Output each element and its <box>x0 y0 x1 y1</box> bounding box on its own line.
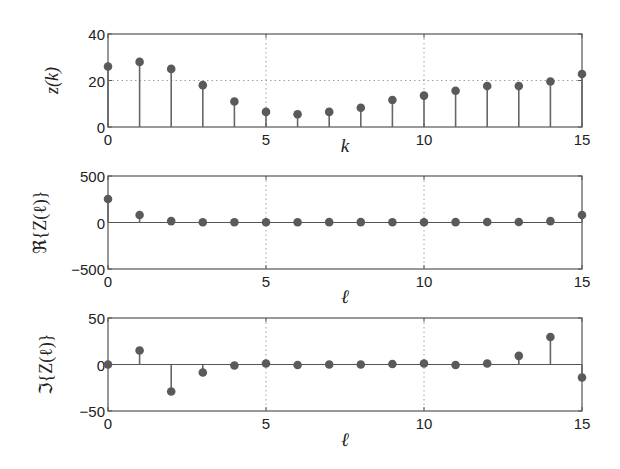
stem-marker <box>167 65 176 74</box>
stem-marker <box>262 218 271 227</box>
stem-marker <box>104 360 113 369</box>
x-tick-label: 15 <box>574 273 591 290</box>
stem-marker <box>199 218 208 227</box>
stem-marker <box>167 387 176 396</box>
subplot-real-part-Z: 051015−5000500ℓℜ{Z(ℓ)} <box>30 168 590 307</box>
stem-marker <box>357 360 366 369</box>
x-tick-label: 5 <box>262 131 270 148</box>
stem-marker <box>262 108 271 117</box>
stem-marker <box>230 361 239 370</box>
stem-marker <box>199 81 208 90</box>
stem-marker <box>546 77 555 86</box>
stem-marker <box>578 211 587 220</box>
x-tick-label: 0 <box>104 273 112 290</box>
stem-marker <box>388 96 397 105</box>
x-tick-label: 10 <box>416 273 433 290</box>
stem-marker <box>515 82 524 91</box>
stem-marker <box>167 217 176 226</box>
axes-frame <box>108 34 582 127</box>
y-tick-label: 20 <box>88 73 105 90</box>
stem-marker <box>420 91 429 100</box>
stem-marker <box>388 360 397 369</box>
x-axis-label: ℓ <box>341 429 349 450</box>
stem-marker <box>104 195 113 204</box>
stem-marker <box>325 360 334 369</box>
stem-marker <box>135 58 144 67</box>
stem-marker <box>451 86 460 95</box>
stem-marker <box>230 218 239 227</box>
stem-marker <box>293 110 302 119</box>
stem-marker <box>293 218 302 227</box>
stem-marker <box>262 359 271 368</box>
x-tick-label: 0 <box>104 415 112 432</box>
x-tick-label: 10 <box>416 131 433 148</box>
subplot-z-of-k: 05101502040kz(k) <box>42 26 590 156</box>
stem-marker <box>483 82 492 91</box>
x-tick-label: 5 <box>262 273 270 290</box>
stem-marker <box>515 352 524 361</box>
stem-marker <box>230 97 239 106</box>
x-tick-label: 15 <box>574 131 591 148</box>
stem-marker <box>388 218 397 227</box>
y-tick-label: 40 <box>88 26 105 43</box>
stem-marker <box>483 359 492 368</box>
stem-marker <box>104 62 113 71</box>
stem-marker <box>451 218 460 227</box>
stem-marker <box>357 103 366 112</box>
y-tick-label: −50 <box>80 403 105 420</box>
stem-marker <box>325 108 334 117</box>
stem-marker <box>135 346 144 355</box>
y-tick-label: −500 <box>71 261 105 278</box>
stem-marker <box>515 218 524 227</box>
stem-marker <box>578 373 587 382</box>
stem-marker <box>546 333 555 342</box>
y-tick-label: 0 <box>97 119 105 136</box>
y-tick-label: 500 <box>80 168 105 185</box>
x-tick-label: 15 <box>574 415 591 432</box>
x-tick-label: 0 <box>104 131 112 148</box>
y-tick-label: 0 <box>97 215 105 232</box>
stem-marker <box>199 368 208 377</box>
stem-marker <box>293 361 302 370</box>
y-tick-label: 50 <box>88 310 105 327</box>
x-axis-label: ℓ <box>341 286 349 307</box>
stem-marker <box>325 218 334 227</box>
x-tick-label: 10 <box>416 415 433 432</box>
stem-marker <box>483 218 492 227</box>
y-axis-label: z(k) <box>42 67 63 95</box>
x-tick-label: 5 <box>262 415 270 432</box>
stem-marker <box>420 218 429 227</box>
stem-marker <box>135 211 144 220</box>
y-axis-label: ℜ{Z(ℓ)} <box>30 191 51 255</box>
x-axis-label: k <box>341 135 350 156</box>
subplot-imag-part-Z: 051015−50050ℓℑ{Z(ℓ)} <box>36 310 590 450</box>
stem-marker <box>546 217 555 226</box>
stem-marker <box>578 70 587 79</box>
stem-marker <box>451 361 460 370</box>
stem-plot-figure: 05101502040kz(k)051015−5000500ℓℜ{Z(ℓ)}05… <box>0 0 620 469</box>
stem-marker <box>357 218 366 227</box>
y-axis-label: ℑ{Z(ℓ)} <box>36 334 57 396</box>
stem-marker <box>420 359 429 368</box>
